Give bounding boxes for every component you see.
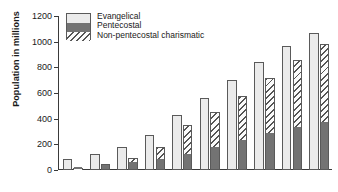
y-tick-mark	[54, 16, 58, 17]
legend-swatch-pentecostal	[67, 23, 90, 32]
segment-charismatic	[184, 126, 192, 156]
y-tick-mark	[54, 93, 58, 94]
bar-evangelical	[63, 159, 73, 170]
x-axis-label-1960: 1960	[63, 190, 83, 192]
segment-pentecostal	[239, 140, 247, 169]
bar-stacked	[156, 147, 166, 170]
x-axis-label-2020: 2020	[227, 190, 247, 192]
bar-evangelical	[227, 80, 237, 170]
segment-charismatic	[239, 97, 247, 142]
y-tick-label: 1200	[32, 11, 52, 21]
bar-stacked	[265, 78, 275, 170]
bar-evangelical	[200, 98, 210, 170]
segment-pentecostal	[157, 159, 165, 169]
y-axis-line	[58, 16, 59, 170]
bar-stacked	[320, 44, 330, 170]
bar-stacked	[128, 158, 138, 170]
bar-stacked	[293, 60, 303, 170]
segment-pentecostal	[102, 165, 110, 169]
bar-evangelical	[117, 147, 127, 170]
x-axis-label-2000: 2000	[172, 190, 192, 192]
x-axis-label-2050: 2050	[309, 190, 329, 192]
x-axis-label-2010: 2010	[200, 190, 220, 192]
y-tick-mark	[54, 42, 58, 43]
legend-swatch-charismatic	[67, 32, 90, 41]
bar-evangelical	[145, 135, 155, 170]
bar-evangelical	[282, 46, 292, 170]
x-axis-label-1980: 1980	[117, 190, 137, 192]
y-tick-mark	[54, 119, 58, 120]
segment-pentecostal	[74, 167, 82, 169]
population-bar-chart: Population in millions 02004006008001000…	[0, 0, 338, 192]
segment-charismatic	[211, 113, 219, 149]
segment-pentecostal	[129, 162, 137, 169]
legend-swatch-evangelical	[67, 14, 90, 23]
y-tick-mark	[54, 170, 58, 171]
bar-evangelical	[254, 62, 264, 170]
y-axis-title: Population in millions	[11, 0, 21, 129]
bar-evangelical	[172, 115, 182, 170]
legend-swatch-stack	[66, 13, 91, 40]
segment-charismatic	[266, 79, 274, 135]
bar-stacked	[183, 125, 193, 170]
segment-charismatic	[321, 45, 329, 124]
segment-pentecostal	[266, 133, 274, 169]
segment-pentecostal	[211, 147, 219, 169]
segment-pentecostal	[321, 122, 329, 169]
y-tick-label: 0	[47, 165, 52, 175]
segment-pentecostal	[184, 154, 192, 169]
bar-evangelical	[90, 154, 100, 170]
bar-stacked	[238, 96, 248, 170]
y-tick-mark	[54, 144, 58, 145]
legend-label-list: Evangelical Pentecostal Non-pentecostal …	[97, 12, 204, 40]
x-axis-label-2030: 2030	[254, 190, 274, 192]
bar-stacked	[73, 168, 83, 170]
x-axis-label-1990: 1990	[145, 190, 165, 192]
bar-stacked	[101, 164, 111, 170]
segment-pentecostal	[294, 127, 302, 169]
x-axis-label-1970: 1970	[90, 190, 110, 192]
y-tick-label: 1000	[32, 37, 52, 47]
bar-stacked	[210, 112, 220, 170]
bar-evangelical	[309, 33, 319, 170]
segment-charismatic	[294, 61, 302, 128]
legend-item-charismatic: Non-pentecostal charismatic	[97, 31, 204, 40]
y-tick-label: 200	[37, 139, 52, 149]
y-tick-label: 800	[37, 62, 52, 72]
y-tick-label: 400	[37, 114, 52, 124]
x-axis-label-2040: 2040	[282, 190, 302, 192]
y-tick-mark	[54, 67, 58, 68]
y-tick-label: 600	[37, 88, 52, 98]
